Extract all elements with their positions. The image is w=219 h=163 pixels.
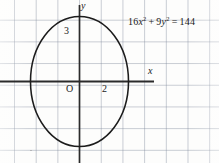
- y-tick-label-3: 3: [64, 26, 69, 36]
- x-axis-label: x: [148, 66, 152, 76]
- origin-label: O: [66, 84, 73, 94]
- x-tick-label-2: 2: [102, 84, 107, 94]
- scan-speck: [30, 150, 32, 151]
- equation-exp-x: 2: [143, 15, 146, 22]
- equation-equals: =: [172, 16, 178, 27]
- equation-coef-x: 16: [128, 16, 138, 27]
- y-axis-label: y: [81, 1, 85, 11]
- equation-annotation: 16x2+9y2=144: [128, 15, 195, 27]
- graph-figure: y x O 3 2 16x2+9y2=144: [0, 0, 219, 163]
- equation-rhs: 144: [179, 16, 195, 27]
- equation-exp-y: 2: [166, 15, 169, 22]
- equation-plus: +: [149, 16, 155, 27]
